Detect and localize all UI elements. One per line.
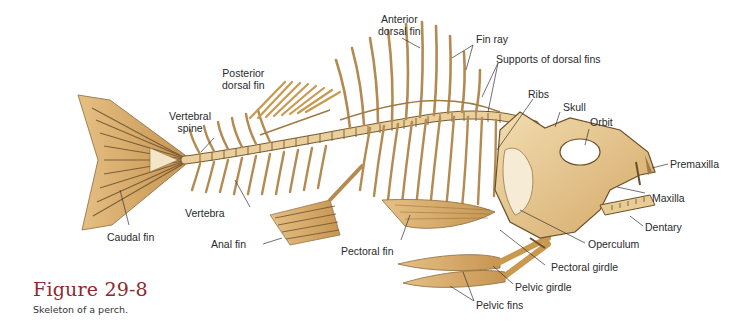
label-premaxilla: Premaxilla xyxy=(670,158,719,170)
label-caudal-fin: Caudal fin xyxy=(107,231,154,243)
label-pectoral-fin: Pectoral fin xyxy=(341,245,394,257)
label-dentary: Dentary xyxy=(645,221,682,233)
label-orbit: Orbit xyxy=(590,116,613,128)
label-line: dorsal fin xyxy=(378,25,421,37)
figure-title: Figure 29-8 xyxy=(33,278,148,300)
label-anal-fin: Anal fin xyxy=(211,238,246,250)
label-line: Anterior xyxy=(378,13,421,25)
label-line: Vertebral xyxy=(169,110,211,122)
label-fin-ray: Fin ray xyxy=(476,33,508,45)
label-pectoral-girdle: Pectoral girdle xyxy=(551,261,618,273)
label-vertebral-spine: Vertebral spine xyxy=(169,110,211,134)
label-supports-of-dorsal-fins: Supports of dorsal fins xyxy=(496,53,600,65)
skull-art xyxy=(495,112,655,248)
perch-skeleton-figure: Anterior dorsal fin Fin ray Supports of … xyxy=(0,0,755,329)
figure-caption: Skeleton of a perch. xyxy=(33,304,128,315)
label-pelvic-girdle: Pelvic girdle xyxy=(515,281,572,293)
label-line: spine xyxy=(169,122,211,134)
label-vertebra: Vertebra xyxy=(185,207,225,219)
label-operculum: Operculum xyxy=(588,238,639,250)
label-skull: Skull xyxy=(563,101,586,113)
label-line: Posterior xyxy=(222,67,265,79)
label-pelvic-fins: Pelvic fins xyxy=(476,299,523,311)
label-ribs: Ribs xyxy=(528,88,549,100)
label-maxilla: Maxilla xyxy=(652,192,685,204)
anal-fin-art xyxy=(270,166,362,245)
label-posterior-dorsal-fin: Posterior dorsal fin xyxy=(222,67,265,91)
label-anterior-dorsal-fin: Anterior dorsal fin xyxy=(378,13,421,37)
label-line: dorsal fin xyxy=(222,79,265,91)
